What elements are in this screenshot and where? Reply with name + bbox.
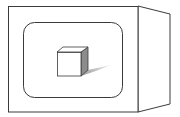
diagram-canvas — [0, 0, 180, 117]
box-display-illustration — [0, 0, 180, 117]
cube-front-face — [58, 53, 82, 77]
box-side-face — [138, 6, 170, 112]
